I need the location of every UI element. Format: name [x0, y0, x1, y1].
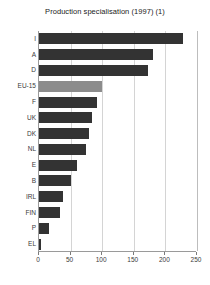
bar-i [39, 33, 183, 44]
bar-row: EU-15 [39, 81, 196, 92]
y-axis-label-i: I [34, 36, 36, 43]
x-tick-label-200: 200 [159, 257, 170, 264]
bar-irl [39, 191, 63, 202]
x-tick-label-150: 150 [127, 257, 138, 264]
x-tick-label-50: 50 [66, 257, 73, 264]
bar-row: P [39, 223, 196, 234]
bar-el [39, 239, 41, 250]
bar-d [39, 65, 148, 76]
bars-layer: IADEU-15FUKDKNLEBIRLFINPEL [39, 31, 196, 251]
y-axis-label-el: EL [28, 241, 36, 248]
y-axis-label-b: B [32, 178, 36, 185]
y-axis-label-a: A [32, 51, 36, 58]
x-axis: 050100150200250 [38, 252, 196, 274]
bar-uk [39, 112, 92, 123]
bar-e [39, 160, 77, 171]
bar-row: F [39, 97, 196, 108]
x-tick-mark [133, 252, 134, 255]
bar-row: A [39, 49, 196, 60]
bar-row: DK [39, 128, 196, 139]
x-tick-mark [164, 252, 165, 255]
x-tick-label-0: 0 [36, 257, 40, 264]
y-axis-label-uk: UK [27, 115, 36, 122]
y-axis-label-e: E [32, 162, 36, 169]
x-tick-mark [38, 252, 39, 255]
y-axis-label-p: P [32, 225, 36, 232]
y-axis-label-fin: FIN [26, 209, 36, 216]
x-tick-mark [196, 252, 197, 255]
bar-fin [39, 207, 60, 218]
bar-a [39, 49, 153, 60]
bar-row: D [39, 65, 196, 76]
gridline [197, 31, 198, 251]
plot-area: IADEU-15FUKDKNLEBIRLFINPEL [38, 31, 196, 252]
bar-row: EL [39, 239, 196, 250]
x-tick-label-250: 250 [191, 257, 202, 264]
bar-p [39, 223, 49, 234]
bar-row: UK [39, 112, 196, 123]
bar-f [39, 97, 97, 108]
bar-row: IRL [39, 191, 196, 202]
chart-container: Production specialisation (1997) (1) IAD… [0, 0, 210, 285]
y-axis-label-nl: NL [28, 146, 36, 153]
x-tick-mark [101, 252, 102, 255]
y-axis-label-f: F [32, 99, 36, 106]
bar-row: B [39, 175, 196, 186]
bar-row: FIN [39, 207, 196, 218]
bar-row: NL [39, 144, 196, 155]
y-axis-label-d: D [31, 67, 36, 74]
bar-row: E [39, 160, 196, 171]
bar-nl [39, 144, 86, 155]
y-axis-label-eu-15: EU-15 [18, 83, 36, 90]
chart-title: Production specialisation (1997) (1) [0, 7, 210, 16]
x-tick-label-100: 100 [96, 257, 107, 264]
x-tick-mark [70, 252, 71, 255]
bar-b [39, 175, 71, 186]
bar-dk [39, 128, 89, 139]
y-axis-label-dk: DK [27, 130, 36, 137]
y-axis-label-irl: IRL [26, 193, 36, 200]
bar-row: I [39, 33, 196, 44]
bar-eu-15 [39, 81, 102, 92]
